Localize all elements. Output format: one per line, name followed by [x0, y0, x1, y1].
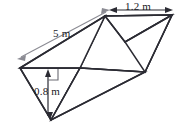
dimension-width-arrowhead-left: [109, 7, 117, 13]
dimension-width-arrowhead-right: [165, 7, 173, 13]
dimension-length-arrowhead-start: [17, 55, 26, 61]
dimension-label-height: 0.8 m: [34, 86, 60, 97]
geometry-figure: 5 m 1.2 m 0.8 m: [0, 0, 176, 134]
dimension-label-width: 1.2 m: [125, 1, 151, 12]
dimension-label-length: 5 m: [53, 28, 70, 39]
prism-drawing: [0, 0, 176, 134]
dimension-length-arrowhead-end: [101, 8, 110, 14]
